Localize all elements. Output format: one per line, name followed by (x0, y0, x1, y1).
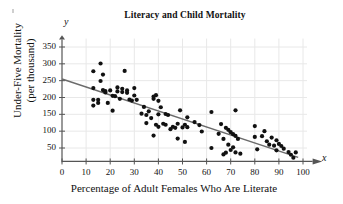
y-tick-label: 150 (28, 108, 56, 118)
x-tick-label: 100 (289, 167, 317, 177)
y-tick-label: 100 (28, 125, 56, 135)
chart-figure: Literacy and Child Mortality Under-Five … (0, 0, 343, 204)
trend-line (62, 79, 298, 157)
data-points (91, 61, 298, 159)
y-tick-label: 350 (28, 41, 56, 51)
y-tick-label: 200 (28, 92, 56, 102)
y-tick-label: 50 (28, 142, 56, 152)
y-tick-label: 250 (28, 75, 56, 85)
y-tick-label: 300 (28, 58, 56, 68)
